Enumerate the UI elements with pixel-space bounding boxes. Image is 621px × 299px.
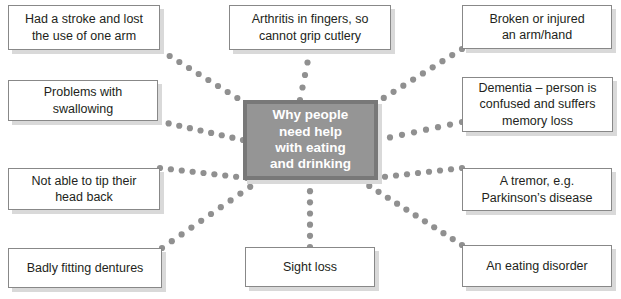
node-dementia[interactable]: Dementia – person isconfused and suffers… xyxy=(462,77,613,132)
node-label: An eating disorder xyxy=(469,258,605,275)
center-node-label: Why peopleneed helpwith eatingand drinki… xyxy=(270,107,351,173)
node-eating-disorder[interactable]: An eating disorder xyxy=(462,245,612,287)
node-label: Arthritis in fingers, socannot grip cutl… xyxy=(236,11,384,44)
node-broken-arm[interactable]: Broken or injuredan arm/hand xyxy=(462,5,612,49)
node-label: Dementia – person isconfused and suffers… xyxy=(469,80,606,130)
node-swallowing[interactable]: Problems withswallowing xyxy=(8,80,158,121)
node-stroke[interactable]: Had a stroke and lostthe use of one arm xyxy=(8,5,160,50)
node-label: Sight loss xyxy=(252,259,368,276)
node-label: Badly fitting dentures xyxy=(15,260,155,277)
diagram-canvas: Had a stroke and lostthe use of one arm … xyxy=(0,0,621,299)
node-head-back[interactable]: Not able to tip theirhead back xyxy=(8,168,160,210)
node-label: Broken or injuredan arm/hand xyxy=(469,11,605,44)
node-tremor[interactable]: A tremor, e.g.Parkinson’s disease xyxy=(462,168,612,211)
node-dentures[interactable]: Badly fitting dentures xyxy=(8,248,162,288)
node-label: Not able to tip theirhead back xyxy=(15,173,153,206)
node-label: A tremor, e.g.Parkinson’s disease xyxy=(469,173,605,206)
node-sight-loss[interactable]: Sight loss xyxy=(245,247,375,287)
node-label: Problems withswallowing xyxy=(15,84,151,117)
node-arthritis[interactable]: Arthritis in fingers, socannot grip cutl… xyxy=(229,5,391,50)
center-node[interactable]: Why peopleneed helpwith eatingand drinki… xyxy=(243,100,378,180)
node-label: Had a stroke and lostthe use of one arm xyxy=(15,11,153,44)
